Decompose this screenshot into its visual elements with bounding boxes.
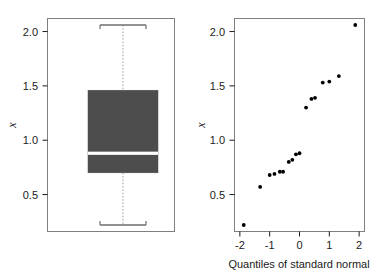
boxplot-y-tick-label: 1.0 <box>23 134 38 146</box>
boxplot-box <box>88 90 158 173</box>
qq-data-point <box>337 74 341 78</box>
qq-svg: 0.51.01.52.0 -2-1012 x Quantiles of stan… <box>192 0 383 275</box>
qq-x-tick-label: 1 <box>326 239 332 251</box>
qq-data-point <box>287 160 291 164</box>
qq-data-point <box>278 170 282 174</box>
boxplot-median-line <box>88 152 158 155</box>
qq-data-point <box>281 170 285 174</box>
qq-panel: 0.51.01.52.0 -2-1012 x Quantiles of stan… <box>192 0 383 275</box>
qq-data-point <box>290 158 294 162</box>
qq-data-point <box>353 23 357 27</box>
qq-data-point <box>298 151 302 155</box>
qq-data-point <box>321 81 325 85</box>
qq-x-axis-label: Quantiles of standard normal <box>228 258 369 270</box>
qq-y-ticks: 0.51.01.52.0 <box>210 26 235 201</box>
boxplot-y-ticks: 0.51.01.52.0 <box>23 26 48 201</box>
qq-data-point <box>310 97 314 101</box>
qq-y-tick-label: 0.5 <box>210 189 225 201</box>
qq-y-axis-label: x <box>194 122 208 129</box>
boxplot-panel: 0.51.01.52.0 x <box>0 0 192 275</box>
qq-x-tick-label: 2 <box>356 239 362 251</box>
qq-data-point <box>268 173 272 177</box>
qq-x-tick-label: 0 <box>296 239 302 251</box>
qq-data-point <box>294 152 298 156</box>
boxplot-y-axis-label: x <box>5 122 19 129</box>
qq-x-tick-label: -1 <box>265 239 275 251</box>
qq-y-tick-label: 1.5 <box>210 80 225 92</box>
qq-data-point <box>304 106 308 110</box>
qq-data-point <box>242 223 246 227</box>
boxplot-y-tick-label: 2.0 <box>23 26 38 38</box>
figure-container: 0.51.01.52.0 x 0.51.01.52.0 -2-1012 x Qu… <box>0 0 383 275</box>
qq-data-point <box>327 80 331 84</box>
qq-plot-frame <box>235 19 365 232</box>
qq-x-ticks: -2-1012 <box>235 232 362 252</box>
qq-y-tick-label: 2.0 <box>210 26 225 38</box>
qq-data-point <box>313 96 317 100</box>
boxplot-y-tick-label: 0.5 <box>23 189 38 201</box>
qq-data-point <box>273 172 277 176</box>
boxplot-svg: 0.51.01.52.0 x <box>0 0 192 275</box>
qq-data-point <box>258 185 262 189</box>
boxplot-y-tick-label: 1.5 <box>23 80 38 92</box>
qq-x-tick-label: -2 <box>235 239 245 251</box>
qq-y-tick-label: 1.0 <box>210 134 225 146</box>
